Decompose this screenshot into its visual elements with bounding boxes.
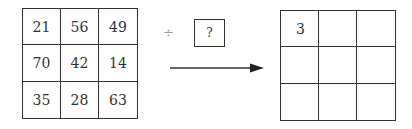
grid-cell: 56	[61, 9, 99, 45]
input-number-grid: 21 56 49 70 42 14 35 28 63	[22, 8, 138, 119]
result-cell	[319, 47, 357, 83]
result-cell	[281, 84, 319, 120]
grid-cell: 49	[99, 9, 137, 45]
result-cell	[281, 47, 319, 83]
result-cell	[319, 11, 357, 47]
divisor-box: ?	[194, 19, 225, 47]
result-cell: 3	[281, 11, 319, 47]
grid-cell: 35	[23, 82, 61, 118]
divide-sign: ÷	[163, 25, 174, 40]
result-cell	[357, 84, 395, 120]
grid-cell: 63	[99, 82, 137, 118]
result-grid: 3	[280, 10, 396, 121]
result-cell	[357, 47, 395, 83]
grid-cell: 70	[23, 45, 61, 81]
grid-cell: 28	[61, 82, 99, 118]
right-arrow-icon	[170, 61, 265, 75]
result-cell	[319, 84, 357, 120]
grid-cell: 21	[23, 9, 61, 45]
result-cell	[357, 11, 395, 47]
grid-cell: 42	[61, 45, 99, 81]
grid-cell: 14	[99, 45, 137, 81]
